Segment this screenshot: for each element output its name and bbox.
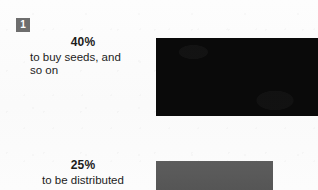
callout-25-percent: 25% to be distributed (22, 159, 144, 187)
callout-40-percent: 40% to buy seeds, and so on (22, 36, 144, 78)
callout-percent-value: 40% (22, 36, 144, 50)
bar-25-percent (156, 161, 273, 190)
callout-percent-value: 25% (22, 159, 144, 173)
callout-description: to buy seeds, and so on (22, 51, 144, 78)
bar-40-percent (156, 38, 318, 116)
callout-description: to be distributed (22, 174, 144, 188)
infographic-page: 1 40% to buy seeds, and so on 25% to be … (0, 0, 318, 190)
step-badge-1: 1 (16, 18, 30, 32)
